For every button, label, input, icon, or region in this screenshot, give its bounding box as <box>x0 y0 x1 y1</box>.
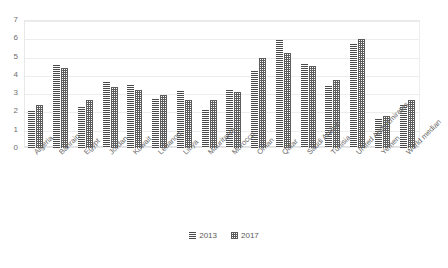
bar-2013 <box>78 107 85 148</box>
bar-2017 <box>309 66 316 148</box>
bar-2017 <box>358 39 365 148</box>
bar-2013 <box>152 99 159 148</box>
bar-group <box>251 20 267 148</box>
bar-2013 <box>350 44 357 148</box>
chart-legend: 20132017 <box>0 228 448 242</box>
y-axis-tick-label: 4 <box>14 71 18 79</box>
bar-group <box>152 20 168 148</box>
legend-swatch-icon <box>231 232 238 239</box>
bar-group <box>301 20 317 148</box>
bar-group <box>202 20 218 148</box>
bar-group <box>350 20 366 148</box>
y-axis-tick-label: 5 <box>14 53 18 61</box>
legend-swatch-icon <box>189 232 196 239</box>
bar-group <box>28 20 44 148</box>
y-axis-tick-label: 2 <box>14 107 18 115</box>
bar-2017 <box>61 68 68 148</box>
bar-2013 <box>202 110 209 148</box>
bar-2013 <box>28 111 35 148</box>
legend-label: 2017 <box>241 231 259 240</box>
bar-2013 <box>276 40 283 148</box>
y-axis-tick-label: 7 <box>14 16 18 24</box>
legend-label: 2013 <box>199 231 217 240</box>
x-axis-labels: AlgeriaBahrainEgyptJordanKuwaitLebanonLi… <box>24 150 420 216</box>
watermark-top <box>180 1 410 15</box>
bar-group <box>400 20 416 148</box>
bar-group <box>276 20 292 148</box>
bar-2017 <box>259 58 266 148</box>
bar-2013 <box>53 65 60 148</box>
y-axis-tick-label: 6 <box>14 34 18 42</box>
bar-series-container <box>24 20 420 148</box>
bar-group <box>103 20 119 148</box>
bar-chart: 01234567 AlgeriaBahrainEgyptJordanKuwait… <box>0 0 448 268</box>
bar-2013 <box>301 64 308 148</box>
legend-item[interactable]: 2013 <box>189 231 217 240</box>
bar-group <box>53 20 69 148</box>
y-axis-tick-label: 0 <box>14 144 18 152</box>
y-axis-tick-label: 1 <box>14 126 18 134</box>
bar-group <box>78 20 94 148</box>
y-axis-tick-label: 3 <box>14 89 18 97</box>
bar-group <box>127 20 143 148</box>
y-axis-ticks: 01234567 <box>0 20 22 148</box>
legend-item[interactable]: 2017 <box>231 231 259 240</box>
bar-group <box>177 20 193 148</box>
watermark-top-right <box>392 2 442 16</box>
bar-2013 <box>103 82 110 148</box>
bar-2017 <box>284 53 291 148</box>
